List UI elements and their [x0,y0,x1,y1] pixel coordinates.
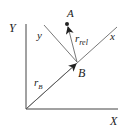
y-rotated-label: y [36,29,42,41]
r-rel-label: rrel [75,32,89,47]
x-rotated-label: x [109,30,115,42]
X-axis-label: X [109,114,118,128]
point-B-label: B [78,66,86,80]
Y-axis-label: Y [9,21,17,35]
relative-motion-diagram: Y X x y A B rrel rB [0,0,127,129]
r-rel-subscript: rel [79,38,88,47]
r-B-subscript: B [38,83,43,91]
point-A-label: A [66,7,74,19]
r-B-label: rB [34,76,43,91]
point-A-dot [65,22,69,26]
